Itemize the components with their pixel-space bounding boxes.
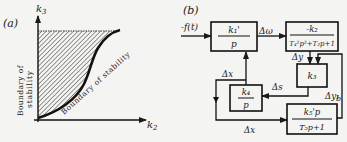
signal-domega: Δω	[258, 26, 273, 36]
svg-text:-k₂: -k₂	[306, 24, 318, 34]
svg-text:T₄²p²+T₂p+1: T₄²p²+T₂p+1	[289, 40, 335, 48]
svg-text:k₅'p: k₅'p	[304, 107, 321, 117]
diagram-canvas: (a) k3 k2 Boundary of stability Boundary…	[0, 0, 347, 142]
svg-text:k₁': k₁'	[228, 25, 240, 35]
x-axis-label: k2	[147, 119, 158, 132]
block-k3: k₃	[297, 64, 327, 87]
svg-text:k₃: k₃	[307, 71, 316, 81]
arrow-k3-to-k4	[262, 87, 308, 96]
signal-ds: Δs	[271, 82, 283, 92]
input-signal-label: -f(t)	[181, 22, 199, 32]
y-axis-label: k3	[36, 3, 47, 16]
signal-dx-top: Δx	[221, 69, 233, 79]
signal-dy: Δy	[291, 52, 303, 62]
panel-b-label: (b)	[183, 4, 199, 17]
block-k2: -k₂ T₄²p²+T₂p+1	[286, 22, 338, 51]
signal-b: b	[336, 94, 341, 103]
block-k4: k₄ p	[230, 85, 262, 111]
block-k5: k₅'p T₅p+1	[287, 104, 337, 134]
vertical-boundary-label-line1: Boundary of	[16, 64, 25, 116]
svg-text:p: p	[243, 100, 249, 110]
block-k1: k₁' p	[211, 22, 257, 51]
panel-b-block-diagram: (b) -f(t) k₁' p Δω -k₂ T₄²p²+T₂p+1 Δy k₃	[181, 4, 342, 135]
svg-text:T₅p+1: T₅p+1	[299, 123, 324, 132]
loop-down-arrowhead	[213, 97, 219, 103]
panel-a-label: (a)	[3, 17, 18, 30]
panel-a-stability-plot: (a) k3 k2 Boundary of stability Boundary…	[3, 3, 158, 132]
svg-text:p: p	[231, 39, 237, 49]
svg-text:k₄: k₄	[242, 87, 251, 97]
vertical-boundary-label-line2: stability	[25, 70, 34, 108]
signal-dx-bottom: Δx	[243, 125, 255, 135]
